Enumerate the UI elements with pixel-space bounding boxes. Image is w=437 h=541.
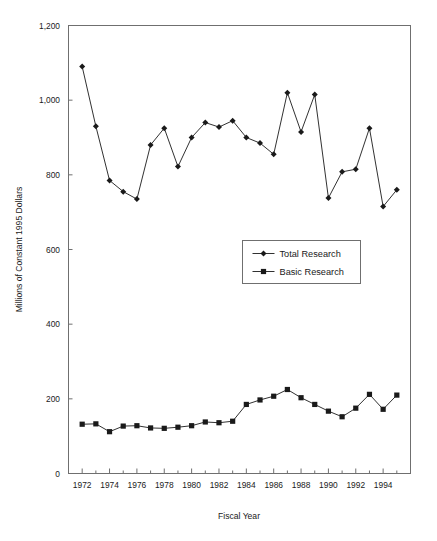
y-tick-label: 200 [46, 394, 60, 404]
y-axis-tickmarks [69, 26, 73, 474]
data-point-marker-diamond [325, 195, 331, 201]
data-point-marker-square [394, 393, 399, 398]
data-point-marker-square [285, 387, 290, 392]
page-top-artifact [0, 0, 437, 10]
x-tick-label: 1988 [292, 480, 311, 490]
data-point-marker-square [203, 419, 208, 424]
data-point-marker-square [80, 422, 85, 427]
data-point-marker-diamond [216, 124, 222, 130]
data-point-marker-diamond [79, 64, 85, 70]
x-tick-label: 1986 [264, 480, 283, 490]
data-point-marker-square [381, 407, 386, 412]
data-point-marker-diamond [284, 90, 290, 96]
data-point-marker-diamond [175, 164, 181, 170]
data-point-marker-square [257, 397, 262, 402]
data-point-marker-square [230, 419, 235, 424]
series-basic-research [80, 387, 400, 434]
x-axis-tick-labels: 1972197419761978198019821984198619881990… [73, 480, 393, 490]
y-axis-title: Millions of Constant 1995 Dollars [14, 187, 24, 313]
data-point-marker-diamond [312, 92, 318, 98]
y-tick-label: 400 [46, 319, 60, 329]
data-point-marker-square [93, 421, 98, 426]
x-tick-label: 1994 [374, 480, 393, 490]
y-tick-label: 1,000 [39, 95, 60, 105]
data-point-marker-square [189, 423, 194, 428]
x-tick-label: 1972 [73, 480, 92, 490]
data-point-marker-square [326, 409, 331, 414]
data-point-marker-square [107, 429, 112, 434]
data-point-marker-square [148, 425, 153, 430]
x-tick-label: 1976 [128, 480, 147, 490]
data-point-marker-square [134, 423, 139, 428]
x-axis-title: Fiscal Year [218, 511, 260, 521]
y-tick-label: 800 [46, 170, 60, 180]
chart-legend: Total ResearchBasic Research [243, 241, 361, 284]
data-point-marker-square [271, 394, 276, 399]
data-point-marker-square [312, 402, 317, 407]
x-tick-label: 1980 [182, 480, 201, 490]
data-point-marker-square [175, 425, 180, 430]
x-tick-label: 1974 [100, 480, 119, 490]
series-line [82, 390, 397, 432]
x-tick-label: 1978 [155, 480, 174, 490]
data-point-marker-diamond [366, 125, 372, 131]
data-point-marker-diamond [93, 123, 99, 129]
x-tick-label: 1984 [237, 480, 256, 490]
data-point-marker-square [162, 426, 167, 431]
data-point-marker-square [367, 392, 372, 397]
chart-figure: 02004006008001,0001,200 1972197419761978… [0, 0, 437, 541]
data-point-marker-diamond [339, 169, 345, 175]
y-tick-label: 1,200 [39, 21, 60, 31]
legend-frame [243, 241, 361, 284]
data-point-marker-square [121, 423, 126, 428]
data-point-marker-diamond [298, 129, 304, 135]
x-tick-label: 1982 [210, 480, 229, 490]
data-point-marker-square [353, 406, 358, 411]
data-point-marker-square [298, 395, 303, 400]
x-tick-label: 1990 [319, 480, 338, 490]
y-tick-label: 0 [55, 469, 60, 479]
line-chart: 02004006008001,0001,200 1972197419761978… [0, 0, 437, 541]
data-point-marker-square [216, 420, 221, 425]
data-point-marker-diamond [353, 166, 359, 172]
data-point-marker-square [244, 402, 249, 407]
data-point-marker-square [261, 269, 266, 274]
x-tick-label: 1992 [346, 480, 365, 490]
y-tick-label: 600 [46, 245, 60, 255]
legend-item-label: Total Research [280, 249, 341, 259]
y-axis-tick-labels: 02004006008001,0001,200 [39, 21, 60, 479]
data-point-marker-diamond [134, 196, 140, 202]
data-point-marker-square [340, 414, 345, 419]
x-axis-tickmarks [82, 469, 397, 474]
series-total-research [79, 64, 400, 210]
legend-item-label: Basic Research [280, 267, 344, 277]
series-line [82, 67, 397, 207]
